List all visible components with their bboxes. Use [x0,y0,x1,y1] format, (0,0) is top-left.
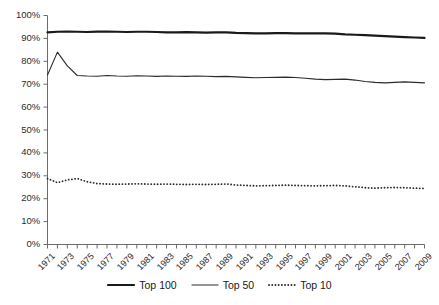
legend-label: Top 100 [139,279,176,291]
y-axis-tick-label: 10% [2,215,40,226]
y-axis-tick-label: 80% [2,55,40,66]
solid-thin-line-swatch [191,280,219,290]
y-axis-tick-label: 90% [2,32,40,43]
legend-entry: Top 10 [268,279,332,291]
chart-legend: Top 100Top 50Top 10 [0,279,439,291]
series-line-top-10 [48,179,425,189]
legend-entry: Top 100 [107,279,176,291]
series-line-top-50 [48,52,425,83]
y-axis-tick-label: 0% [2,238,40,249]
solid-thick-line-swatch [107,280,135,290]
y-axis-tick-label: 30% [2,169,40,180]
y-axis-tick-label: 100% [2,9,40,20]
dotted-line-swatch [268,280,296,290]
y-axis-tick-label: 50% [2,124,40,135]
y-axis-tick-label: 20% [2,192,40,203]
line-chart: 0%10%20%30%40%50%60%70%80%90%100% 197119… [0,0,439,305]
y-axis-tick-label: 60% [2,101,40,112]
y-axis-tick-label: 40% [2,146,40,157]
legend-label: Top 50 [223,279,255,291]
series-line-top-100 [48,32,425,38]
legend-entry: Top 50 [191,279,255,291]
legend-label: Top 10 [300,279,332,291]
y-axis-tick-label: 70% [2,78,40,89]
